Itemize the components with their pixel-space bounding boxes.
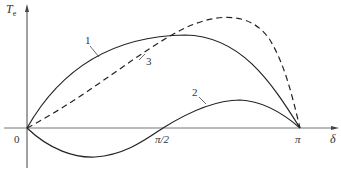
curve-1-label: 1 xyxy=(85,34,91,46)
curve-3 xyxy=(27,17,300,128)
leader-1 xyxy=(90,46,99,57)
half-pi-label: π/2 xyxy=(155,133,169,145)
chart-canvas xyxy=(0,0,341,170)
x-axis-label: δ xyxy=(330,132,336,147)
y-axis-arrow-icon xyxy=(25,4,29,12)
x-axis-arrow-icon xyxy=(331,126,339,130)
origin-label: 0 xyxy=(14,133,20,145)
curve-1 xyxy=(27,35,300,128)
curve-3-label: 3 xyxy=(146,55,152,67)
curve-2-label: 2 xyxy=(192,86,198,98)
curve-2 xyxy=(27,100,300,157)
leader-2 xyxy=(199,97,206,104)
pi-label: π xyxy=(295,133,301,145)
y-axis-label: Te xyxy=(6,2,16,18)
